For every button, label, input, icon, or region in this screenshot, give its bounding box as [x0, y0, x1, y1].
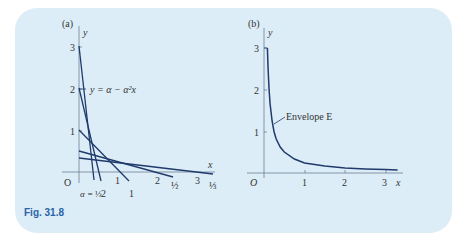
- line-alpha-2: [79, 88, 101, 181]
- x-tick-2: 2: [342, 177, 347, 188]
- y-tick-2: 2: [70, 84, 75, 95]
- y-tick-1: 1: [254, 127, 259, 138]
- chart-b: (b) y x O 3 2 1 1 2 3 Envelope E: [247, 18, 403, 188]
- x-axis-label: x: [395, 177, 401, 188]
- figure-svg: (a) y x O 3 2 1 1 2 3 y = α − α²x α = ⅓ …: [0, 0, 470, 245]
- panel-b-tag: (b): [248, 18, 260, 30]
- x-tick-3: 3: [382, 177, 387, 188]
- y-tick-1: 1: [70, 126, 75, 137]
- envelope-curve: [267, 48, 397, 170]
- y-tick-2: 2: [254, 85, 259, 96]
- y-tick-3: 3: [70, 42, 75, 53]
- origin-label: O: [64, 177, 71, 188]
- equation-label: y = α − α²x: [89, 84, 136, 95]
- x-axis-label: x: [207, 159, 213, 170]
- chart-a: (a) y x O 3 2 1 1 2 3 y = α − α²x α = ⅓ …: [62, 18, 217, 199]
- origin-label: O: [250, 177, 257, 188]
- y-axis-label: y: [267, 27, 273, 38]
- x-tick-1: 1: [302, 177, 307, 188]
- panel-a-tag: (a): [62, 18, 73, 30]
- x-tick-2: 2: [155, 175, 160, 186]
- alpha-1-label: 1: [129, 188, 134, 199]
- alpha-2-label: 2: [101, 188, 106, 199]
- alpha-half-label: ½: [171, 180, 179, 191]
- y-tick-3: 3: [254, 43, 259, 54]
- alpha-third-label: ⅓: [209, 180, 217, 191]
- y-axis-label: y: [82, 27, 88, 38]
- x-tick-1: 1: [115, 175, 120, 186]
- alpha-prefix: α =: [80, 189, 93, 199]
- annotation-leader: [274, 117, 285, 124]
- envelope-label: Envelope E: [286, 111, 332, 122]
- figure-caption: Fig. 31.8: [24, 207, 64, 218]
- x-tick-3: 3: [195, 175, 200, 186]
- line-alpha-1: [79, 130, 129, 181]
